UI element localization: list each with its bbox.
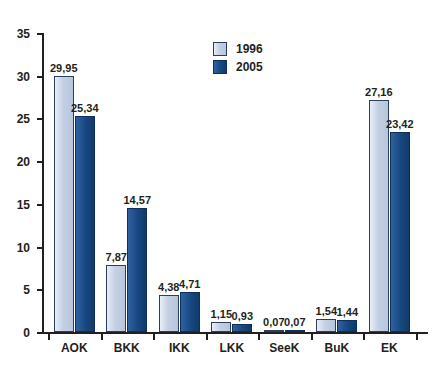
y-tick-label: 30 bbox=[17, 71, 30, 83]
plot-area: 05101520253035 29,9525,34AOK7,8714,57BKK… bbox=[42, 33, 428, 334]
y-tick: 5 bbox=[37, 289, 42, 291]
bar-value-label: 7,87 bbox=[106, 252, 127, 263]
bar-value-label: 23,42 bbox=[386, 119, 414, 130]
legend-label-2005: 2005 bbox=[236, 61, 263, 73]
y-tick-label: 15 bbox=[17, 199, 30, 211]
legend-item-1996: 1996 bbox=[213, 42, 263, 56]
bar-value-label: 0,93 bbox=[232, 311, 253, 322]
bar-value-label: 25,34 bbox=[71, 103, 99, 114]
x-tick bbox=[153, 334, 155, 340]
bar-bkk-1996: 7,87 bbox=[106, 265, 126, 332]
y-tick-label: 20 bbox=[17, 156, 30, 168]
x-tick bbox=[416, 334, 418, 340]
y-tick: 30 bbox=[37, 76, 42, 78]
bar-value-label: 1,15 bbox=[211, 309, 232, 320]
x-category-label-ek: EK bbox=[381, 342, 398, 354]
y-tick-label: 25 bbox=[17, 113, 30, 125]
bar-bkk-2005: 14,57 bbox=[127, 208, 147, 332]
bar-group: 7,8714,57BKK bbox=[101, 33, 154, 332]
bar-group: 4,384,71IKK bbox=[153, 33, 206, 332]
bar-value-label: 1,44 bbox=[337, 307, 358, 318]
y-tick-label: 10 bbox=[17, 242, 30, 254]
y-tick-label: 5 bbox=[23, 284, 30, 296]
bar-group: 27,1623,42EK bbox=[363, 33, 416, 332]
x-tick bbox=[101, 334, 103, 340]
x-category-label-bkk: BKK bbox=[114, 342, 140, 354]
bar-group: 29,9525,34AOK bbox=[48, 33, 101, 332]
bar-value-label: 4,38 bbox=[158, 282, 179, 293]
bar-ikk-2005: 4,71 bbox=[180, 292, 200, 332]
x-tick bbox=[311, 334, 313, 340]
y-axis-line bbox=[42, 33, 44, 334]
legend-swatch-1996 bbox=[213, 42, 227, 56]
bar-group: 1,150,93LKK bbox=[206, 33, 259, 332]
bar-value-label: 0,07 bbox=[263, 317, 284, 328]
bar-group: 0,070,07SeeK bbox=[258, 33, 311, 332]
bar-chart: 05101520253035 29,9525,34AOK7,8714,57BKK… bbox=[0, 0, 444, 371]
bar-seek-2005: 0,07 bbox=[285, 330, 305, 333]
x-tick bbox=[258, 334, 260, 340]
x-tick bbox=[363, 334, 365, 340]
bar-value-label: 0,07 bbox=[284, 317, 305, 328]
bar-value-label: 4,71 bbox=[179, 279, 200, 290]
legend-label-1996: 1996 bbox=[236, 43, 263, 55]
x-tick bbox=[206, 334, 208, 340]
bar-ek-2005: 23,42 bbox=[390, 132, 410, 332]
bar-buk-2005: 1,44 bbox=[337, 320, 357, 332]
bar-value-label: 27,16 bbox=[365, 87, 393, 98]
x-category-label-buk: BuK bbox=[324, 342, 349, 354]
y-tick: 10 bbox=[37, 247, 42, 249]
y-tick: 25 bbox=[37, 118, 42, 120]
x-category-label-ikk: IKK bbox=[169, 342, 190, 354]
x-tick bbox=[48, 334, 50, 340]
bar-group: 1,541,44BuK bbox=[311, 33, 364, 332]
bar-lkk-1996: 1,15 bbox=[211, 322, 231, 332]
x-category-label-aok: AOK bbox=[61, 342, 88, 354]
bar-lkk-2005: 0,93 bbox=[232, 324, 252, 332]
bar-aok-2005: 25,34 bbox=[75, 116, 95, 332]
y-tick: 15 bbox=[37, 204, 42, 206]
y-tick-label: 35 bbox=[17, 28, 30, 40]
x-category-label-lkk: LKK bbox=[219, 342, 244, 354]
bar-value-label: 29,95 bbox=[50, 63, 78, 74]
bar-buk-1996: 1,54 bbox=[316, 319, 336, 332]
bar-ikk-1996: 4,38 bbox=[159, 295, 179, 332]
legend-swatch-2005 bbox=[213, 60, 227, 74]
x-axis-line bbox=[42, 332, 428, 334]
bar-seek-1996: 0,07 bbox=[264, 330, 284, 333]
bar-aok-1996: 29,95 bbox=[54, 76, 74, 332]
chart-legend: 1996 2005 bbox=[213, 42, 263, 74]
y-tick: 35 bbox=[37, 33, 42, 35]
bar-value-label: 14,57 bbox=[124, 195, 152, 206]
y-tick: 20 bbox=[37, 161, 42, 163]
bar-ek-1996: 27,16 bbox=[369, 100, 389, 332]
bar-value-label: 1,54 bbox=[316, 306, 337, 317]
legend-item-2005: 2005 bbox=[213, 60, 263, 74]
y-tick: 0 bbox=[37, 332, 42, 334]
x-category-label-seek: SeeK bbox=[269, 342, 299, 354]
y-tick-label: 0 bbox=[23, 327, 30, 339]
